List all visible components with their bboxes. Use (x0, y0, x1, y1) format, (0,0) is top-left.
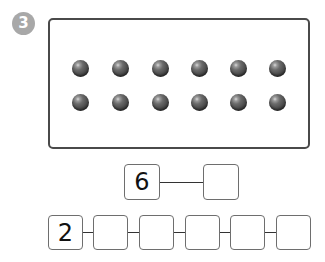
dot (112, 94, 129, 111)
connector-line (265, 232, 276, 233)
dot (269, 60, 286, 77)
connector-line (160, 182, 203, 183)
dot (152, 94, 169, 111)
dot (112, 60, 129, 77)
connector-line (174, 232, 185, 233)
dot (191, 60, 208, 77)
dot-panel (48, 18, 310, 149)
dot (72, 94, 89, 111)
dot (72, 60, 89, 77)
answer-box-empty[interactable] (230, 215, 265, 250)
answer-box-given: 6 (124, 164, 160, 200)
problem-number-badge: 3 (12, 12, 35, 35)
answer-box-empty[interactable] (185, 215, 220, 250)
answer-box-empty[interactable] (93, 215, 128, 250)
dot (191, 94, 208, 111)
dot (269, 94, 286, 111)
answer-box-empty[interactable] (203, 164, 239, 200)
answer-box-empty[interactable] (139, 215, 174, 250)
connector-line (220, 232, 230, 233)
connector-line (83, 232, 93, 233)
answer-box-empty[interactable] (276, 215, 311, 250)
answer-box-given: 2 (48, 215, 83, 250)
dot (230, 60, 247, 77)
dot (230, 94, 247, 111)
dot (152, 60, 169, 77)
connector-line (128, 232, 139, 233)
